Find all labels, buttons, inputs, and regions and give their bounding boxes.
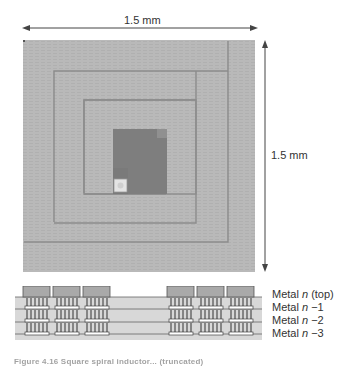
- metal-stack-cross-section: [15, 286, 265, 342]
- layer-label-metal-n-2: Metal n −2: [272, 314, 324, 326]
- layer-label-metal-top: Metal n (top): [272, 288, 334, 300]
- figure-caption: Figure 4.16 Square spiral inductor... (t…: [14, 357, 203, 366]
- spiral-inductor-top-view: [23, 40, 255, 272]
- height-dimension-arrow: [259, 40, 271, 272]
- layer-label-metal-n-3: Metal n −3: [272, 327, 324, 339]
- height-label: 1.5 mm: [271, 149, 308, 161]
- layer-label-metal-n-1: Metal n −1: [272, 301, 324, 313]
- width-label: 1.5 mm: [124, 14, 161, 26]
